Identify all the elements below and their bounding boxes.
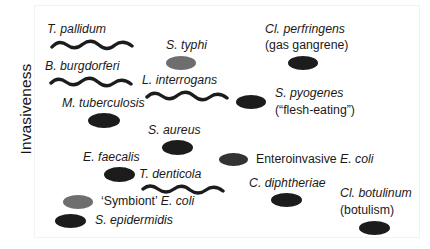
label-c-diphtheriae: C. diphtheriae (249, 176, 326, 190)
cell-e-faecalis (104, 167, 135, 182)
cell-s-typhi (166, 56, 196, 70)
label-s-epidermidis: S. epidermidis (95, 213, 173, 227)
cell-cl-botulinum (359, 221, 390, 235)
label-symbiont-species: E. coli (161, 194, 195, 208)
label-b-burgdorferi: B. burgdorferi (45, 59, 120, 73)
label-symbiont-prefix: ‘Symbiont’ (101, 194, 161, 208)
cell-enteroinvasive-e-coli (219, 153, 248, 166)
label-enteroinvasive-e-coli: Enteroinvasive E. coli (256, 152, 374, 166)
label-m-tuberculosis: M. tuberculosis (62, 96, 145, 110)
sublabel-s-pyogenes: (“flesh-eating”) (275, 103, 355, 117)
cell-m-tuberculosis (88, 113, 120, 128)
label-t-denticola: T. denticola (139, 167, 201, 181)
cell-s-pyogenes (236, 95, 266, 109)
label-l-interrogans: L. interrogans (142, 73, 217, 87)
sublabel-cl-perfringens: (gas gangrene) (265, 38, 348, 52)
spirochete-t-pallidum (50, 38, 136, 54)
invasiveness-figure: Invasiveness T. pallidum S. typhi Cl. pe… (0, 0, 430, 249)
cell-s-aureus (162, 140, 193, 155)
sublabel-cl-botulinum: (botulism) (340, 203, 394, 217)
label-s-aureus: S. aureus (148, 123, 201, 137)
label-cl-perfringens: Cl. perfringens (265, 22, 345, 36)
spirochete-l-interrogans (145, 89, 231, 105)
label-enteroinvasive-prefix: Enteroinvasive (256, 152, 340, 166)
label-symbiont-e-coli: ‘Symbiont’ E. coli (101, 194, 194, 208)
cell-symbiont-e-coli (63, 195, 93, 209)
y-axis-title: Invasiveness (17, 34, 35, 184)
cell-cl-perfringens (288, 56, 318, 70)
label-s-typhi: S. typhi (166, 38, 207, 52)
label-e-faecalis: E. faecalis (83, 150, 140, 164)
label-s-pyogenes: S. pyogenes (275, 86, 343, 100)
cell-s-epidermidis (55, 214, 86, 228)
label-cl-botulinum: Cl. botulinum (340, 186, 412, 200)
spirochete-b-burgdorferi (49, 75, 135, 91)
cell-c-diphtheriae (271, 193, 302, 207)
label-t-pallidum: T. pallidum (47, 22, 106, 36)
label-enteroinvasive-species: E. coli (340, 152, 374, 166)
